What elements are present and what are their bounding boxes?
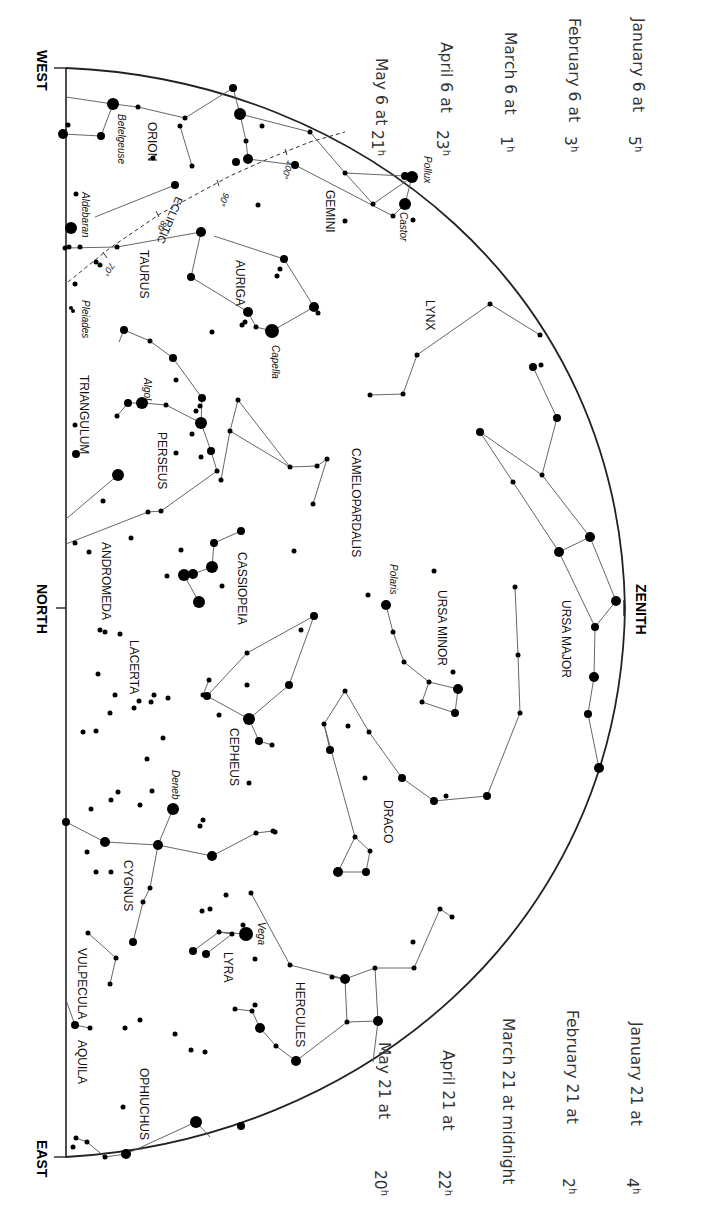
star-dot bbox=[232, 158, 240, 166]
star-dot bbox=[228, 429, 233, 434]
star-dot bbox=[207, 447, 215, 455]
star-dot bbox=[138, 803, 143, 808]
constellation-line bbox=[66, 475, 118, 519]
star-dot bbox=[240, 323, 245, 328]
star-dot bbox=[210, 330, 215, 335]
ecliptic-tick-80 bbox=[156, 211, 159, 217]
constellation-label: VULPECULA bbox=[75, 948, 89, 1019]
star-dot bbox=[183, 116, 188, 121]
time-row: February 21 at2h bbox=[558, 1010, 582, 1196]
star-dot bbox=[275, 274, 280, 279]
star-dot bbox=[129, 938, 137, 946]
star-dot bbox=[78, 245, 83, 250]
star-dot bbox=[103, 630, 108, 635]
star-dot bbox=[165, 574, 170, 579]
star-dot bbox=[115, 414, 120, 419]
hour-unit: h bbox=[379, 1190, 390, 1196]
star-dot bbox=[247, 781, 252, 786]
time-row: February 6 at3h bbox=[560, 18, 584, 156]
ecliptic-tick-90 bbox=[217, 180, 219, 186]
star-dot bbox=[73, 282, 78, 287]
star-dot bbox=[145, 757, 150, 762]
star-dot bbox=[71, 1021, 79, 1029]
star-dot bbox=[169, 354, 177, 362]
hour-value: 22 bbox=[435, 1170, 453, 1190]
star-dot bbox=[415, 353, 420, 358]
star-dot bbox=[71, 309, 75, 313]
time-row: May 21 at20h bbox=[369, 1010, 393, 1196]
star-dot bbox=[453, 684, 463, 694]
star-dot bbox=[190, 1116, 202, 1128]
star-dot bbox=[229, 84, 237, 92]
star-dot bbox=[152, 693, 157, 698]
time-hour: 5h bbox=[624, 136, 648, 152]
star-dot bbox=[444, 794, 449, 799]
star-dot bbox=[107, 98, 119, 110]
star-dot bbox=[194, 409, 199, 414]
constellation-label: LYRA bbox=[221, 952, 235, 982]
star-dot bbox=[554, 547, 564, 557]
constellation-line bbox=[63, 134, 101, 136]
constellation-label: CYGNUS bbox=[121, 860, 135, 911]
time-row: April 6 at23h bbox=[431, 18, 455, 156]
constellation-line bbox=[193, 932, 246, 951]
star-dot bbox=[243, 154, 253, 164]
star-dot bbox=[190, 164, 195, 169]
constellation-label: URSA MINOR bbox=[435, 590, 449, 666]
star-dot bbox=[202, 950, 210, 958]
star-dot bbox=[66, 123, 71, 128]
star-dot bbox=[249, 891, 254, 896]
ecliptic-tick-70 bbox=[103, 252, 107, 258]
hour-value: 5 bbox=[625, 136, 643, 146]
star-dot bbox=[518, 711, 523, 716]
time-date: March 21 at midnight bbox=[498, 1010, 518, 1178]
time-row: March 6 at1h bbox=[496, 18, 520, 156]
constellation-line bbox=[480, 367, 590, 552]
star-dot bbox=[243, 307, 253, 317]
star-dot bbox=[148, 339, 153, 344]
star-dot bbox=[250, 1009, 255, 1014]
star-dot bbox=[62, 818, 70, 826]
star-dot bbox=[208, 907, 213, 912]
constellation-label: TRIANGULUM bbox=[77, 375, 91, 454]
star-dot bbox=[451, 670, 456, 675]
constellation-line bbox=[133, 809, 173, 942]
star-dot bbox=[420, 700, 425, 705]
star-dot bbox=[516, 653, 521, 658]
star-dot bbox=[189, 1048, 194, 1053]
star-dot bbox=[159, 509, 164, 514]
star-dot bbox=[308, 130, 313, 135]
star-dot bbox=[96, 672, 101, 677]
star-dot bbox=[67, 245, 72, 250]
time-hour: 1h bbox=[496, 136, 520, 152]
time-hour: 21h bbox=[367, 130, 391, 156]
hour-value: 1 bbox=[497, 136, 515, 146]
star-dot bbox=[340, 974, 350, 984]
star-dot bbox=[591, 623, 599, 631]
star-dot bbox=[85, 850, 90, 855]
star-dot bbox=[594, 763, 604, 773]
star-dot bbox=[137, 699, 142, 704]
hour-unit: h bbox=[631, 1188, 642, 1194]
star-dot bbox=[150, 789, 155, 794]
star-dot bbox=[207, 851, 217, 861]
star-dot bbox=[198, 394, 206, 402]
constellation-label: ANDROMEDA bbox=[99, 542, 113, 620]
star-dot bbox=[368, 849, 373, 854]
hour-value: 4 bbox=[623, 1178, 641, 1188]
time-date: February 21 at bbox=[558, 1010, 582, 1178]
star-dot bbox=[174, 451, 179, 456]
star-dot bbox=[116, 790, 121, 795]
time-date: March 6 at bbox=[496, 18, 520, 136]
star-dot bbox=[166, 696, 171, 701]
star-dot bbox=[187, 273, 195, 281]
star-dot bbox=[217, 930, 222, 935]
time-row: April 21 at22h bbox=[434, 1010, 458, 1196]
star-dot bbox=[146, 510, 151, 515]
star-dot bbox=[195, 417, 207, 429]
zenith-label: ZENITH bbox=[633, 584, 649, 635]
star-dot bbox=[363, 776, 368, 781]
star-dot bbox=[98, 628, 103, 633]
star-name-label: Castor bbox=[398, 212, 409, 242]
star-name-label: Algol bbox=[142, 377, 153, 401]
